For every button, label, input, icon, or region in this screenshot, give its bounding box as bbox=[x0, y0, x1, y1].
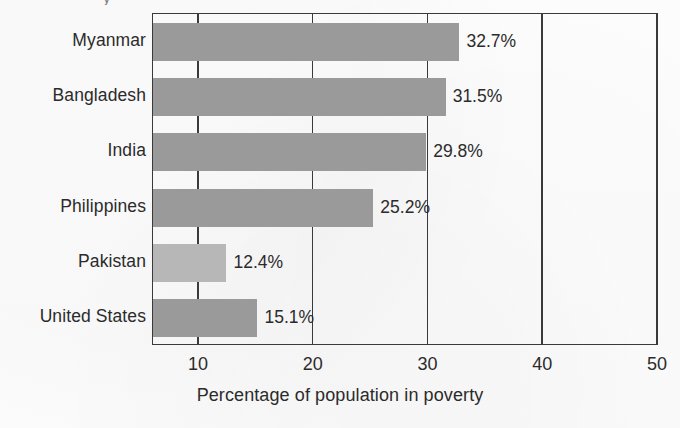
bar-india bbox=[153, 133, 426, 171]
bar-myanmar bbox=[153, 23, 459, 61]
x-axis-title: Percentage of population in poverty bbox=[0, 385, 680, 406]
x-tick-label: 30 bbox=[417, 354, 437, 375]
bars-layer: 32.7%31.5%29.8%25.2%12.4%15.1% bbox=[153, 14, 656, 344]
bar-value-label: 12.4% bbox=[233, 252, 283, 273]
bar-value-label: 29.8% bbox=[433, 141, 483, 162]
category-axis: MyanmarBangladeshIndiaPhilippinesPakista… bbox=[2, 13, 146, 345]
bar-bangladesh bbox=[153, 78, 446, 116]
category-label: Philippines bbox=[6, 196, 146, 217]
category-label: India bbox=[6, 140, 146, 161]
category-label: United States bbox=[6, 306, 146, 327]
category-label: Myanmar bbox=[6, 30, 146, 51]
x-tick-label: 20 bbox=[303, 354, 323, 375]
category-label: Bangladesh bbox=[6, 85, 146, 106]
bar-value-label: 31.5% bbox=[453, 86, 503, 107]
bar-chart-figure: y MyanmarBangladeshIndiaPhilippinesPakis… bbox=[0, 0, 680, 428]
bar-united-states bbox=[153, 299, 257, 337]
x-tick-label: 40 bbox=[532, 354, 552, 375]
bar-value-label: 15.1% bbox=[264, 307, 314, 328]
bar-value-label: 25.2% bbox=[380, 197, 430, 218]
category-label: Pakistan bbox=[6, 251, 146, 272]
x-tick-label: 10 bbox=[188, 354, 208, 375]
bar-pakistan bbox=[153, 244, 226, 282]
bar-value-label: 32.7% bbox=[466, 31, 516, 52]
x-axis: 1020304050 bbox=[152, 345, 657, 385]
bar-philippines bbox=[153, 189, 373, 227]
cropped-title-remnant: y bbox=[103, 0, 119, 5]
x-tick-label: 50 bbox=[647, 354, 667, 375]
